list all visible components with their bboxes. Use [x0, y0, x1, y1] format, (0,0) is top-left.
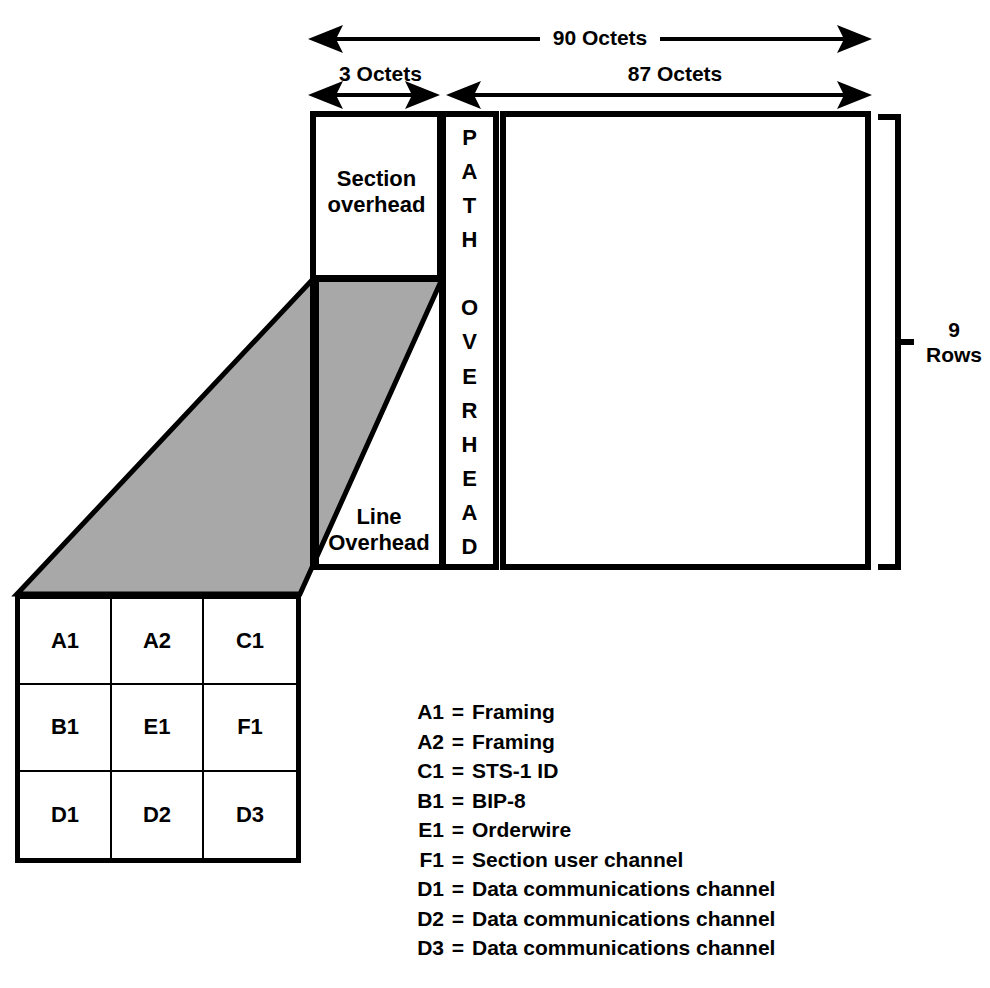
path-overhead-letter-d-12: D [462, 534, 478, 556]
legend-description: Data communications channel [472, 936, 775, 960]
path-overhead-letter-a-11: A [462, 500, 478, 522]
section-overhead-byte-grid: A1A2C1B1E1F1D1D2D3 [15, 594, 301, 863]
legend-row-c1: C1=STS-1 ID [398, 759, 775, 783]
payload-box [503, 114, 868, 567]
overhead-cell-c1: C1 [204, 599, 296, 685]
legend: A1=FramingA2=FramingC1=STS-1 IDB1=BIP-8E… [398, 700, 775, 966]
path-overhead-letter-v-6: V [462, 329, 477, 351]
legend-equals-sign: = [444, 759, 472, 783]
legend-equals-sign: = [444, 848, 472, 872]
path-overhead-letter-e-7: E [462, 364, 477, 386]
legend-row-d2: D2=Data communications channel [398, 907, 775, 931]
path-overhead-letter-t-2: T [463, 193, 476, 215]
overhead-cell-d3: D3 [204, 772, 296, 858]
legend-equals-sign: = [444, 789, 472, 813]
legend-description: Data communications channel [472, 907, 775, 931]
diagram-canvas: 90 Octets 3 Octets 87 Octets 9 Rows Sect… [0, 0, 990, 988]
legend-row-a1: A1=Framing [398, 700, 775, 724]
legend-code: A1 [398, 700, 444, 724]
rows-word: Rows [922, 343, 986, 368]
path-overhead-letter-h-3: H [462, 227, 478, 249]
path-overhead-letter-e-10: E [462, 466, 477, 488]
label-section-overhead: Section overhead [313, 166, 440, 218]
legend-code: C1 [398, 759, 444, 783]
legend-code: D2 [398, 907, 444, 931]
legend-description: Framing [472, 730, 555, 754]
legend-equals-sign: = [444, 730, 472, 754]
legend-row-a2: A2=Framing [398, 730, 775, 754]
label-line-overhead: Line Overhead [316, 504, 442, 556]
path-overhead-letter-a-1: A [462, 159, 478, 181]
overhead-cell-d2: D2 [112, 772, 204, 858]
rows-bracket [878, 117, 914, 567]
overhead-cell-a2: A2 [112, 599, 204, 685]
overhead-cell-b1: B1 [20, 685, 112, 771]
legend-row-d1: D1=Data communications channel [398, 877, 775, 901]
label-3-octets: 3 Octets [318, 62, 443, 87]
overhead-cell-d1: D1 [20, 772, 112, 858]
section-overhead-line-1: Section [313, 166, 440, 192]
legend-row-d3: D3=Data communications channel [398, 936, 775, 960]
line-overhead-line-1: Line [316, 504, 442, 530]
label-path-overhead: PATHXOVERHEAD [443, 113, 496, 568]
legend-code: A2 [398, 730, 444, 754]
overhead-cell-a1: A1 [20, 599, 112, 685]
legend-description: Orderwire [472, 818, 571, 842]
legend-equals-sign: = [444, 700, 472, 724]
overhead-cell-e1: E1 [112, 685, 204, 771]
legend-description: Data communications channel [472, 877, 775, 901]
section-overhead-line-2: overhead [313, 192, 440, 218]
path-overhead-letter-p-0: P [462, 125, 477, 147]
overhead-cell-f1: F1 [204, 685, 296, 771]
path-overhead-letter-h-9: H [462, 432, 478, 454]
path-overhead-letter-o-5: O [461, 295, 478, 317]
legend-equals-sign: = [444, 877, 472, 901]
legend-code: B1 [398, 789, 444, 813]
legend-description: Framing [472, 700, 555, 724]
path-overhead-letter-r-8: R [462, 398, 478, 420]
legend-code: F1 [398, 848, 444, 872]
legend-row-e1: E1=Orderwire [398, 818, 775, 842]
legend-description: BIP-8 [472, 789, 526, 813]
line-overhead-line-2: Overhead [316, 530, 442, 556]
legend-row-b1: B1=BIP-8 [398, 789, 775, 813]
legend-equals-sign: = [444, 936, 472, 960]
legend-equals-sign: = [444, 907, 472, 931]
legend-code: E1 [398, 818, 444, 842]
legend-code: D1 [398, 877, 444, 901]
label-9-rows: 9 Rows [922, 318, 986, 368]
legend-description: STS-1 ID [472, 759, 558, 783]
legend-description: Section user channel [472, 848, 683, 872]
label-90-octets: 90 Octets [545, 26, 655, 51]
legend-code: D3 [398, 936, 444, 960]
legend-equals-sign: = [444, 818, 472, 842]
legend-row-f1: F1=Section user channel [398, 848, 775, 872]
rows-count: 9 [922, 318, 986, 343]
label-87-octets: 87 Octets [610, 62, 740, 87]
